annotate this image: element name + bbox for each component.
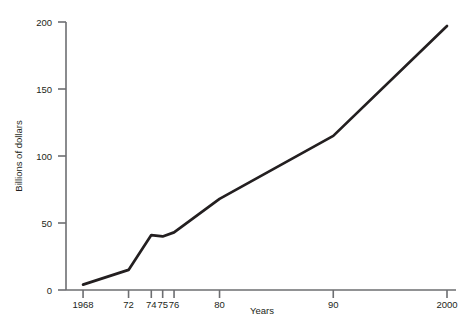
y-tick-label: 50 [41, 218, 52, 229]
line-chart: 050100150200 19687274757680902000 Billio… [0, 0, 464, 334]
x-tick-label: 75 [157, 299, 168, 310]
y-tick-label: 100 [36, 151, 52, 162]
figure-container: 050100150200 19687274757680902000 Billio… [0, 0, 464, 334]
y-tick-label: 150 [36, 84, 52, 95]
x-tick-label: 76 [169, 299, 180, 310]
x-axis-title: Years [250, 305, 274, 316]
x-tick-label: 80 [214, 299, 225, 310]
data-series-line [83, 26, 447, 285]
x-tick-label: 90 [328, 299, 339, 310]
y-axis-title: Billions of dollars [13, 120, 24, 192]
x-tick-label: 74 [146, 299, 157, 310]
x-axis-ticks [83, 290, 447, 298]
x-tick-label: 72 [123, 299, 134, 310]
x-tick-label: 1968 [72, 299, 93, 310]
x-tick-label: 2000 [436, 299, 457, 310]
y-axis-ticks [58, 22, 66, 290]
y-tick-label: 0 [47, 285, 52, 296]
figure-caption [0, 318, 464, 334]
y-tick-label: 200 [36, 17, 52, 28]
y-axis-tick-labels: 050100150200 [36, 17, 52, 296]
